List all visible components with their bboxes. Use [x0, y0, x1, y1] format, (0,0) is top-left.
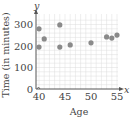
y-tick-label: 0: [27, 84, 33, 95]
x-axis-label: Age: [69, 106, 89, 117]
x-tick-label: 50: [85, 91, 98, 102]
data-point: [36, 44, 41, 49]
scatter-chart: 404550550100200300 Age Time (in minutes)…: [0, 0, 130, 121]
data-point: [42, 36, 47, 41]
axes: [34, 9, 124, 91]
data-point: [109, 35, 114, 40]
data-point: [57, 44, 62, 49]
grid: [36, 14, 118, 89]
data-point: [114, 32, 119, 37]
data-point: [68, 42, 73, 47]
data-point: [57, 22, 62, 27]
data-point: [36, 26, 41, 31]
x-axis-letter: x: [124, 84, 130, 95]
y-axis-letter: y: [33, 0, 40, 11]
data-point: [104, 34, 109, 39]
y-tick-label: 200: [14, 41, 33, 52]
data-point: [88, 40, 93, 45]
y-axis-label: Time (in minutes): [0, 12, 11, 97]
x-tick-label: 40: [33, 91, 46, 102]
x-tick-label: 55: [111, 91, 124, 102]
y-tick-label: 300: [14, 19, 33, 30]
data-points: [36, 22, 119, 49]
tick-labels: 404550550100200300: [14, 19, 123, 102]
y-tick-label: 100: [14, 62, 33, 73]
x-tick-label: 45: [59, 91, 72, 102]
